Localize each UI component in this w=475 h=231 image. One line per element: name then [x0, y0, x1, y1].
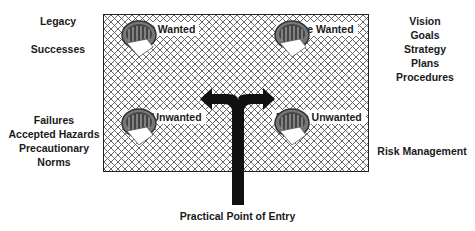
t-arrow-icon: [0, 0, 475, 231]
arrow-stem: [200, 88, 275, 205]
entry-label: Practical Point of Entry: [0, 210, 475, 222]
